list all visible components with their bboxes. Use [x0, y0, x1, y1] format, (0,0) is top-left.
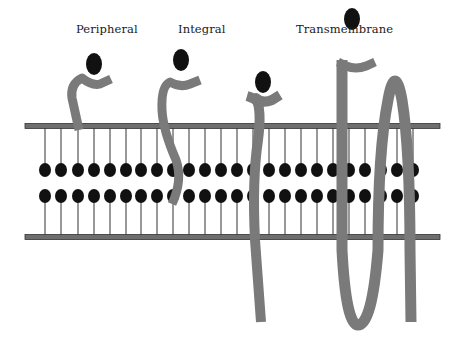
lipid-head — [279, 163, 291, 177]
lipid-head — [279, 189, 291, 203]
lipid-head — [183, 163, 195, 177]
lipid-head — [295, 189, 307, 203]
integral-protein-head — [173, 49, 189, 71]
membrane-protein-diagram: Peripheral Integral Transmembrane — [0, 0, 466, 358]
lipid-head — [295, 163, 307, 177]
lipid-head — [311, 189, 323, 203]
lipid-head — [39, 163, 51, 177]
lipid-head — [151, 189, 163, 203]
lipid-head — [72, 189, 84, 203]
lipid-head — [55, 163, 67, 177]
lipid-head — [263, 163, 275, 177]
lipid-head — [72, 163, 84, 177]
lipid-head — [104, 163, 116, 177]
lipid-head — [359, 189, 371, 203]
membrane-outer-surface — [25, 124, 440, 129]
lipid-head — [263, 189, 275, 203]
lipid-head — [88, 189, 100, 203]
lipid-head — [231, 189, 243, 203]
lipid-head — [215, 163, 227, 177]
lipid-head — [88, 163, 100, 177]
lipid-head — [311, 163, 323, 177]
lipid-head — [135, 189, 147, 203]
lipid-head — [120, 189, 132, 203]
lipid-head — [39, 189, 51, 203]
lipid-bilayer — [39, 126, 419, 237]
lipid-head — [135, 163, 147, 177]
label-transmembrane: Transmembrane — [296, 22, 393, 36]
lipid-head — [391, 163, 403, 177]
diagram-canvas — [0, 0, 466, 358]
peripheral-protein-head — [86, 53, 102, 75]
lipid-head — [199, 163, 211, 177]
lipid-head — [215, 189, 227, 203]
lipid-head — [359, 163, 371, 177]
transmembrane-single-head — [255, 71, 271, 93]
peripheral-protein — [72, 53, 111, 130]
lipid-head — [199, 189, 211, 203]
label-integral: Integral — [178, 22, 226, 36]
lipid-head — [104, 189, 116, 203]
lipid-head — [183, 189, 195, 203]
lipid-head — [120, 163, 132, 177]
label-peripheral: Peripheral — [76, 22, 138, 36]
lipid-head — [231, 163, 243, 177]
lipid-head — [151, 163, 163, 177]
lipid-head — [391, 189, 403, 203]
lipid-head — [55, 189, 67, 203]
